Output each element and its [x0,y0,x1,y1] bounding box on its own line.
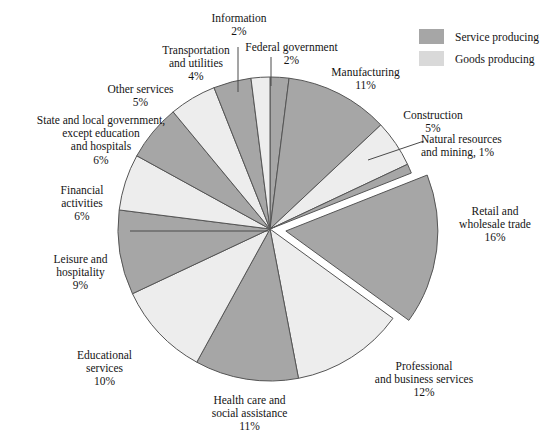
legend-label-service-producing: Service producing [455,31,539,43]
slice-label-natural-resources-line2: and mining, 1% [421,146,546,159]
slice-label-financial-line1: Financial [61,184,104,196]
legend-swatch-service-producing [419,29,444,44]
slice-label-retail-line1: Retail and [472,205,519,217]
slice-label-transportation-utilities: Transportation and utilities 4% [141,44,251,84]
slice-label-leisure-pct: 9% [33,279,128,292]
slice-label-educational-line1: Educational [77,349,132,361]
slice-label-state-local-line2: except education [11,127,191,140]
slice-label-financial-line2: activities [37,197,127,210]
slice-label-transportation-pct: 4% [141,70,251,83]
slice-label-state-local-pct: 6% [11,154,191,167]
slice-label-information: Information 2% [189,12,289,38]
slice-label-professional-pct: 12% [349,386,499,399]
slice-label-natural-resources: Natural resources and mining, 1% [421,133,546,159]
slice-label-professional-line1: Professional [396,360,453,372]
legend-swatch-goods-producing [419,51,444,66]
legend-label-goods-producing: Goods producing [455,53,535,65]
slice-label-other-services-name: Other services [107,83,173,95]
slice-label-financial-pct: 6% [37,210,127,223]
slice-label-educational-services: Educational services 10% [57,349,152,389]
slice-label-federal-government-name: Federal government [245,41,337,53]
pie-chart-figure: Service producing Goods producing Inform… [0,0,548,447]
slice-label-retail-pct: 16% [446,231,544,244]
slice-label-leisure-hospitality: Leisure and hospitality 9% [33,253,128,293]
slice-label-educational-pct: 10% [57,375,152,388]
legend-item-service-producing: Service producing [419,29,539,44]
slice-label-professional-line2: and business services [349,373,499,386]
slice-label-health-care-line1: Health care and [213,394,285,406]
slice-label-educational-line2: services [57,362,152,375]
slice-label-natural-resources-line1: Natural resources [421,133,502,145]
slice-label-professional-services: Professional and business services 12% [349,360,499,400]
chart-legend: Service producing Goods producing [419,29,539,73]
slice-label-other-services-pct: 5% [88,96,193,109]
slice-label-retail-line2: wholesale trade [446,218,544,231]
slice-label-manufacturing-name: Manufacturing [331,66,399,78]
slice-label-leisure-line2: hospitality [33,266,128,279]
slice-label-construction: Construction 5% [388,109,478,135]
legend-item-goods-producing: Goods producing [419,51,539,66]
slice-label-transportation-line2: and utilities [141,57,251,70]
slice-label-transportation-line1: Transportation [162,44,229,56]
slice-label-health-care-line2: social assistance [187,407,312,420]
slice-label-manufacturing-pct: 11% [313,79,418,92]
slice-label-retail-wholesale: Retail and wholesale trade 16% [446,205,544,245]
slice-label-health-care: Health care and social assistance 11% [187,394,312,434]
slice-label-leisure-line1: Leisure and [54,253,108,265]
slice-label-state-local-line3: and hospitals [11,140,191,153]
slice-label-information-name: Information [212,12,267,24]
slice-label-state-local-government: State and local government, except educa… [11,114,191,167]
slice-label-manufacturing: Manufacturing 11% [313,66,418,92]
slice-label-state-local-line1: State and local government, [37,114,165,126]
slice-label-financial-activities: Financial activities 6% [37,184,127,224]
slice-label-construction-name: Construction [403,109,462,121]
slice-label-other-services: Other services 5% [88,83,193,109]
slice-label-information-pct: 2% [189,25,289,38]
slice-label-health-care-pct: 11% [187,420,312,433]
